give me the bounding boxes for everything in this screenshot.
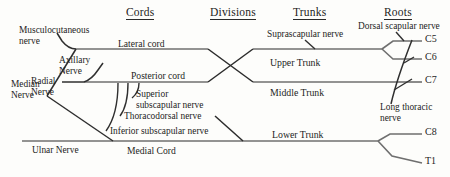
label-root-c8: C8 [425, 127, 437, 138]
label-root-c6: C6 [425, 52, 437, 63]
label-axillary-nerve-line2: Nerve [59, 66, 90, 77]
inferior-subscapular-nerve-line [106, 83, 118, 131]
label-radial-nerve: Radial Nerve [31, 76, 55, 98]
label-middle-trunk: Middle Trunk [270, 88, 324, 98]
long-thoracic-nerve-line [391, 40, 412, 104]
label-upper-trunk: Upper Trunk [270, 58, 320, 68]
label-radial-nerve-line2: Nerve [31, 87, 55, 98]
label-ulnar-nerve: Ulnar Nerve [32, 146, 79, 156]
label-suprascapular-nerve: Suprascapular nerve [267, 30, 343, 40]
label-root-t1: T1 [425, 156, 436, 167]
label-radial-nerve-line1: Radial [31, 76, 55, 87]
label-lower-trunk: Lower Trunk [272, 130, 323, 140]
label-musculocutaneous-nerve-line1: Musculocutaneous [19, 25, 89, 36]
label-lateral-cord: Lateral cord [118, 39, 165, 49]
upper-trunk-fork [382, 41, 422, 49]
label-long-thoracic-nerve-line1: Long thoracic [380, 102, 432, 113]
label-axillary-nerve-line1: Axillary [59, 55, 90, 66]
label-superior-subscapular-nerve-line2: subscapular nerve [136, 100, 203, 111]
label-thoracodorsal-nerve: Thoracodorsal nerve [124, 112, 201, 122]
lower-trunk-fork-t1 [378, 141, 422, 163]
column-header-cords: Cords [126, 6, 154, 20]
label-musculocutaneous-nerve: Musculocutaneous nerve [19, 25, 89, 47]
label-long-thoracic-nerve-line2: nerve [380, 113, 432, 124]
column-header-trunks: Trunks [293, 6, 326, 20]
label-axillary-nerve: Axillary Nerve [59, 55, 90, 77]
label-long-thoracic-nerve: Long thoracic nerve [380, 102, 432, 124]
label-inferior-subscapular-nerve: Inferior subscapular nerve [110, 127, 208, 137]
label-root-c7: C7 [425, 75, 437, 86]
suprascapular-nerve-line [305, 40, 315, 49]
brachial-plexus-diagram: Cords Divisions Trunks Roots Musculocuta… [0, 0, 450, 177]
label-medial-cord: Medial Cord [127, 146, 176, 156]
upper-trunk-fork-lower [382, 49, 422, 59]
label-posterior-cord: Posterior cord [131, 71, 185, 81]
column-header-divisions: Divisions [210, 6, 256, 20]
label-dorsal-scapular-nerve: Dorsal scapular nerve [358, 22, 440, 32]
median-nerve-lower-limb [47, 96, 113, 141]
lower-trunk-fork-c8 [378, 134, 422, 141]
dorsal-scapular-nerve-line [396, 32, 404, 41]
label-superior-subscapular-nerve-line1: Superior [136, 89, 203, 100]
label-root-c5: C5 [425, 34, 437, 45]
column-header-roots: Roots [384, 6, 412, 20]
label-musculocutaneous-nerve-line2: nerve [19, 36, 89, 47]
label-superior-subscapular-nerve: Superior subscapular nerve [136, 89, 203, 111]
division-lower-diagonal [215, 116, 243, 141]
